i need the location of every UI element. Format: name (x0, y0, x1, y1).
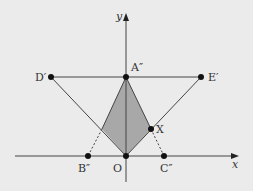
dashed-to-b (88, 129, 102, 156)
label-o: O (113, 162, 122, 175)
point-x (148, 126, 154, 132)
x-axis-label: x (232, 158, 239, 171)
diagram-svg: A″ D′ E′ B″ O C″ X x y (0, 0, 253, 191)
point-c (161, 153, 167, 159)
label-c: C″ (160, 162, 173, 175)
label-a: A″ (130, 61, 143, 74)
label-b: B″ (78, 162, 90, 175)
label-e: E′ (208, 71, 219, 84)
coordinate-diagram: A″ D′ E′ B″ O C″ X x y (0, 0, 253, 191)
point-e (198, 74, 204, 80)
label-x: X (156, 123, 164, 136)
point-o (123, 153, 129, 159)
point-a (123, 74, 129, 80)
y-axis-arrow-icon (123, 13, 129, 21)
point-b (85, 153, 91, 159)
point-d (48, 74, 54, 80)
y-axis-label: y (115, 10, 123, 23)
label-d: D′ (35, 71, 47, 84)
